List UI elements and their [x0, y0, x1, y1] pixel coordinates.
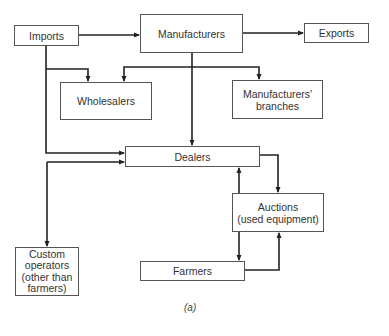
node-custom-operators: Custom operators (other than farmers) — [15, 247, 79, 296]
node-manufacturers: Manufacturers — [140, 14, 243, 53]
node-branches-line1: Manufacturers' — [243, 88, 312, 100]
figure-caption: (a) — [184, 302, 196, 313]
node-branches-line2: branches — [256, 100, 299, 112]
node-manufacturers-branches: Manufacturers' branches — [232, 80, 323, 119]
node-custom-line2: operators — [25, 260, 69, 272]
edge-dealers-auctions — [260, 155, 278, 192]
edge-imports-wholesalers — [46, 69, 88, 81]
node-dealers-label: Dealers — [174, 151, 210, 163]
node-farmers: Farmers — [140, 261, 245, 281]
node-auctions: Auctions (used equipment) — [232, 193, 324, 232]
node-dealers: Dealers — [125, 146, 260, 167]
node-imports-label: Imports — [29, 30, 64, 42]
node-farmers-label: Farmers — [173, 265, 212, 277]
node-custom-line4: farmers) — [27, 283, 66, 295]
node-exports: Exports — [304, 23, 369, 43]
edge-manufacturers-wholesalers — [124, 67, 192, 81]
node-exports-label: Exports — [319, 27, 355, 39]
node-auctions-line2: (used equipment) — [237, 213, 319, 225]
node-auctions-line1: Auctions — [258, 201, 298, 213]
node-manufacturers-label: Manufacturers — [158, 28, 225, 40]
edge-manufacturers-branches — [192, 67, 259, 79]
node-wholesalers: Wholesalers — [60, 82, 152, 120]
node-imports: Imports — [14, 25, 79, 46]
node-wholesalers-label: Wholesalers — [77, 95, 135, 107]
edge-farmers-auctions — [245, 233, 279, 270]
